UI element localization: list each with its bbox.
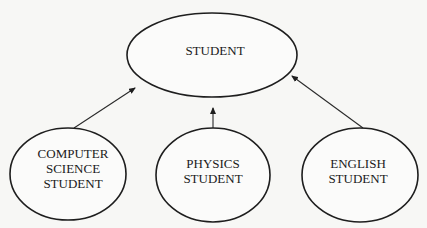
- edge-cs-to-student: [74, 88, 135, 128]
- node-english-student-label-line2: STUDENT: [328, 171, 387, 186]
- node-cs-student-label-line2: SCIENCE: [46, 161, 100, 176]
- node-cs-student-label-line1: COMPUTER: [38, 146, 109, 161]
- edge-english-to-student: [292, 76, 363, 128]
- node-physics-student-label-line2: STUDENT: [183, 171, 242, 186]
- node-physics-student-label-line1: PHYSICS: [186, 156, 239, 171]
- node-student[interactable]: STUDENT: [127, 13, 297, 97]
- node-cs-student-label-line3: STUDENT: [43, 176, 102, 191]
- inheritance-diagram: STUDENT COMPUTER SCIENCE STUDENT PHYSICS…: [0, 0, 427, 228]
- node-english-student-label-line1: ENGLISH: [330, 156, 386, 171]
- node-english-student[interactable]: ENGLISH STUDENT: [302, 128, 418, 222]
- node-physics-student[interactable]: PHYSICS STUDENT: [156, 128, 270, 222]
- node-student-label: STUDENT: [185, 43, 244, 58]
- node-cs-student[interactable]: COMPUTER SCIENCE STUDENT: [10, 128, 126, 220]
